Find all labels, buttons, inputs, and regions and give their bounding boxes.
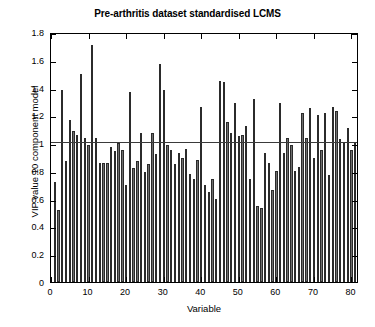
bar xyxy=(226,122,228,282)
bar xyxy=(147,164,149,282)
bar xyxy=(253,99,255,282)
bar xyxy=(159,64,161,282)
bar xyxy=(301,113,303,282)
bar xyxy=(178,153,180,282)
y-axis-title: VIP value 10 component model xyxy=(29,32,40,272)
x-tick-mark-top xyxy=(201,34,202,39)
x-tick-label: 40 xyxy=(185,288,215,297)
bar xyxy=(84,138,86,282)
x-tick-mark-top xyxy=(164,34,165,39)
bar xyxy=(313,158,315,282)
plot-area xyxy=(50,33,358,283)
x-tick-mark xyxy=(239,277,240,282)
y-tick-mark-right xyxy=(352,117,357,118)
y-tick-mark xyxy=(51,201,56,202)
bar xyxy=(309,108,311,282)
y-tick-mark-right xyxy=(352,145,357,146)
y-tick-mark xyxy=(51,228,56,229)
bar xyxy=(174,164,176,282)
x-tick-mark-top xyxy=(314,34,315,39)
bar xyxy=(219,81,221,282)
bar xyxy=(132,168,134,282)
bar xyxy=(271,190,273,282)
y-tick-mark xyxy=(51,256,56,257)
x-tick-mark xyxy=(51,277,52,282)
bar xyxy=(166,145,168,283)
bar xyxy=(305,138,307,282)
bar xyxy=(324,113,326,282)
bar xyxy=(208,192,210,282)
y-tick-label: 0 xyxy=(0,279,44,288)
bar xyxy=(95,138,97,282)
bar xyxy=(275,171,277,282)
bar xyxy=(185,149,187,282)
bar xyxy=(335,111,337,282)
bar xyxy=(121,150,123,282)
bar xyxy=(332,107,334,282)
bar xyxy=(317,115,319,282)
y-tick-mark-right xyxy=(352,228,357,229)
bar xyxy=(170,150,172,282)
bar xyxy=(204,185,206,282)
bar-series xyxy=(51,34,357,282)
bar xyxy=(106,163,108,282)
bar xyxy=(61,90,63,282)
x-tick-label: 0 xyxy=(35,288,65,297)
x-tick-mark-top xyxy=(239,34,240,39)
bar xyxy=(215,199,217,282)
x-tick-mark-top xyxy=(89,34,90,39)
bar xyxy=(193,179,195,282)
bar xyxy=(57,210,59,282)
bar xyxy=(339,139,341,282)
bar xyxy=(294,171,296,282)
x-tick-label: 70 xyxy=(298,288,328,297)
bar xyxy=(286,138,288,282)
y-tick-mark xyxy=(51,145,56,146)
bar xyxy=(354,143,356,282)
bar xyxy=(129,92,131,282)
x-tick-mark-top xyxy=(51,34,52,39)
x-tick-mark-top xyxy=(126,34,127,39)
y-tick-mark-right xyxy=(352,173,357,174)
bar xyxy=(181,158,183,282)
bar xyxy=(91,45,93,283)
y-tick-mark xyxy=(51,90,56,91)
bar xyxy=(102,163,104,282)
chart-figure: Pre-arthritis dataset standardised LCMS … xyxy=(0,0,375,327)
y-tick-mark xyxy=(51,173,56,174)
bar xyxy=(69,120,71,283)
bar xyxy=(238,136,240,282)
bar xyxy=(320,150,322,282)
bar xyxy=(279,103,281,282)
bar xyxy=(114,151,116,282)
bar xyxy=(260,208,262,282)
x-tick-label: 30 xyxy=(148,288,178,297)
reference-line-vip-1 xyxy=(51,142,357,143)
x-tick-label: 10 xyxy=(73,288,103,297)
x-tick-label: 20 xyxy=(110,288,140,297)
y-tick-mark-right xyxy=(352,62,357,63)
bar xyxy=(76,135,78,282)
x-tick-mark xyxy=(126,277,127,282)
bar xyxy=(245,126,247,282)
y-tick-mark xyxy=(51,117,56,118)
bar xyxy=(343,143,345,282)
x-tick-mark-top xyxy=(351,34,352,39)
x-tick-mark xyxy=(164,277,165,282)
bar xyxy=(290,145,292,283)
bar xyxy=(99,163,101,282)
bar xyxy=(298,167,300,282)
bar xyxy=(163,90,165,282)
bar xyxy=(249,179,251,282)
bar xyxy=(117,143,119,282)
bar xyxy=(241,135,243,282)
x-tick-label: 60 xyxy=(260,288,290,297)
bar xyxy=(140,133,142,282)
x-tick-mark xyxy=(276,277,277,282)
x-axis-title: Variable xyxy=(50,303,358,314)
bar xyxy=(125,185,127,282)
bar xyxy=(211,179,213,282)
x-tick-label: 50 xyxy=(223,288,253,297)
bar xyxy=(65,161,67,282)
x-tick-mark-top xyxy=(276,34,277,39)
